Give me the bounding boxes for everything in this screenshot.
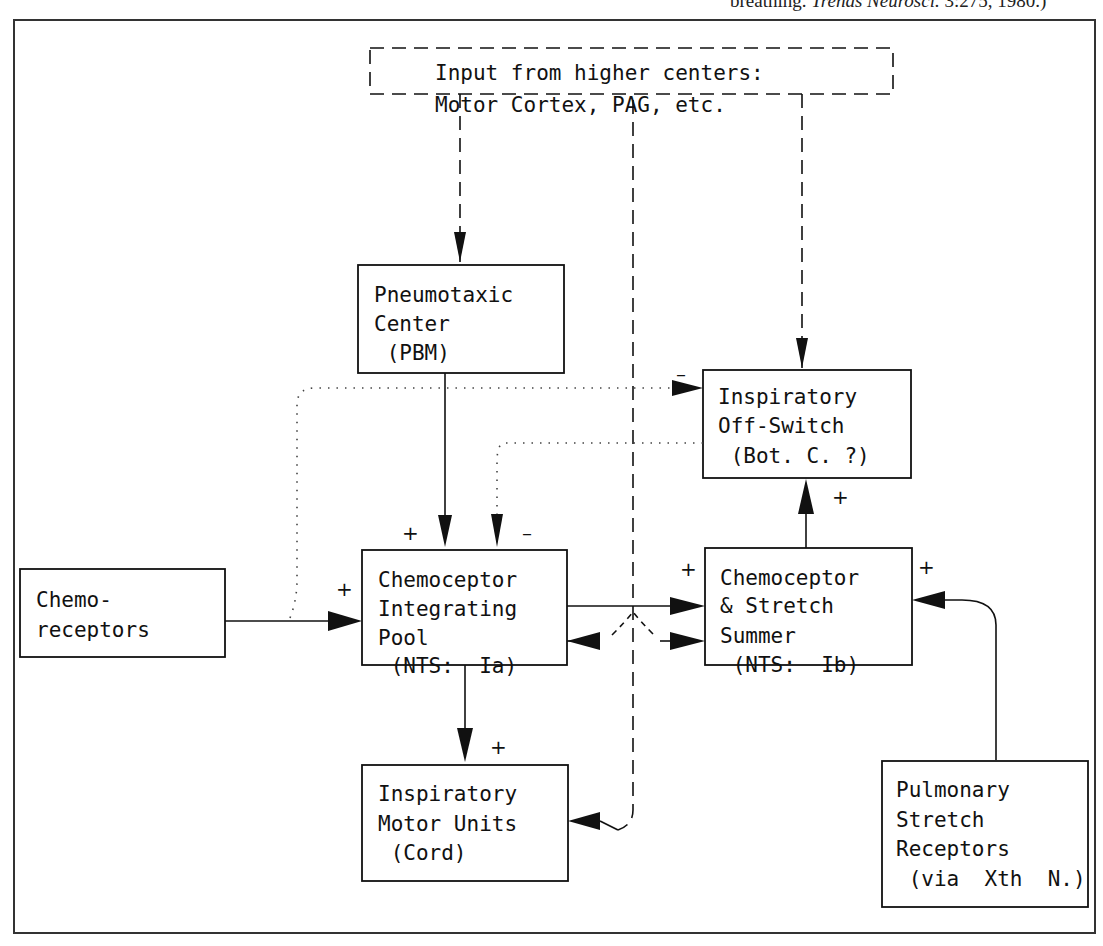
svg-text:& Stretch: & Stretch bbox=[720, 594, 834, 618]
sign-plus-summer-left: + bbox=[680, 557, 697, 581]
svg-text:(PBM): (PBM) bbox=[374, 341, 450, 365]
svg-text:receptors: receptors bbox=[36, 618, 150, 642]
arrowhead-left-icon bbox=[568, 812, 600, 830]
arrowhead-right-icon bbox=[670, 597, 705, 615]
svg-text:Summer: Summer bbox=[720, 624, 796, 648]
svg-text:Off-Switch: Off-Switch bbox=[718, 414, 844, 438]
arrowhead-left-icon bbox=[567, 632, 600, 650]
svg-text:Integrating: Integrating bbox=[378, 597, 517, 621]
arrowhead-down-icon bbox=[438, 515, 452, 547]
arrowhead-down-icon bbox=[796, 338, 808, 368]
sign-plus-chemo: + bbox=[336, 577, 353, 601]
arrowhead-down-icon bbox=[454, 232, 466, 262]
sign-plus-off-switch: + bbox=[832, 485, 849, 509]
svg-text:(NTS: Ib): (NTS: Ib) bbox=[720, 653, 859, 677]
respiratory-control-diagram: Input from higher centers: Motor Cortex,… bbox=[0, 0, 1103, 946]
arrowhead-up-icon bbox=[798, 479, 814, 514]
arrowhead-down-icon bbox=[457, 728, 473, 762]
node-chemoreceptors: Chemo- receptors bbox=[20, 569, 225, 657]
svg-text:Inspiratory: Inspiratory bbox=[378, 782, 517, 806]
sign-plus-motor: + bbox=[490, 735, 507, 759]
sign-plus-pneumotaxic: + bbox=[402, 521, 419, 545]
svg-text:(via Xth N.): (via Xth N.) bbox=[896, 867, 1086, 891]
svg-text:Pulmonary: Pulmonary bbox=[896, 778, 1010, 802]
higher-centers-line1: Input from higher centers: bbox=[435, 61, 764, 85]
svg-text:(Bot. C. ?): (Bot. C. ?) bbox=[718, 444, 870, 468]
svg-text:Motor Units: Motor Units bbox=[378, 812, 517, 836]
svg-text:Pool: Pool bbox=[378, 626, 429, 650]
node-summer: Chemoceptor & Stretch Summer (NTS: Ib) bbox=[705, 548, 912, 677]
node-integrating-pool: Chemoceptor Integrating Pool (NTS: Ia) bbox=[362, 550, 567, 678]
svg-text:Receptors: Receptors bbox=[896, 837, 1010, 861]
svg-text:(NTS: Ia): (NTS: Ia) bbox=[378, 654, 517, 678]
arrowhead-right-icon bbox=[670, 632, 705, 650]
svg-text:Stretch: Stretch bbox=[896, 808, 985, 832]
svg-text:Pneumotaxic: Pneumotaxic bbox=[374, 283, 513, 307]
arrowhead-right-icon bbox=[328, 611, 362, 631]
sign-plus-summer-right: + bbox=[918, 555, 935, 579]
svg-text:Chemo-: Chemo- bbox=[36, 588, 112, 612]
node-stretch-receptors: Pulmonary Stretch Receptors (via Xth N.) bbox=[882, 761, 1088, 907]
svg-text:Inspiratory: Inspiratory bbox=[718, 385, 857, 409]
dashed-to-motor-units bbox=[618, 100, 633, 830]
arrowhead-right-icon bbox=[672, 380, 703, 396]
arrowhead-left-icon bbox=[912, 591, 945, 609]
svg-text:(Cord): (Cord) bbox=[378, 841, 467, 865]
node-pneumotaxic: Pneumotaxic Center (PBM) bbox=[358, 265, 564, 373]
node-off-switch: Inspiratory Off-Switch (Bot. C. ?) bbox=[703, 370, 911, 478]
sign-minus-pool: – bbox=[522, 521, 532, 545]
svg-text:Chemoceptor: Chemoceptor bbox=[378, 568, 517, 592]
dotted-off-switch-to-pool bbox=[497, 443, 703, 514]
arrowhead-down-icon bbox=[491, 514, 503, 547]
svg-text:Chemoceptor: Chemoceptor bbox=[720, 566, 859, 590]
node-motor-units: Inspiratory Motor Units (Cord) bbox=[362, 765, 568, 881]
svg-text:Center: Center bbox=[374, 312, 450, 336]
higher-centers-line2: Motor Cortex, PAG, etc. bbox=[435, 93, 726, 117]
node-higher-centers: Input from higher centers: Motor Cortex,… bbox=[370, 48, 893, 117]
